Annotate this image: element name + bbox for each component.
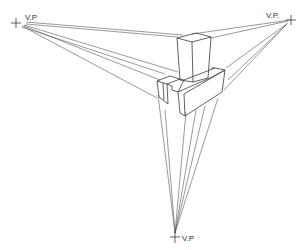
bottom-vp-label: V.P: [182, 234, 194, 243]
left-vp-construction-lines: [22, 22, 183, 98]
right-vp-label: V.P.: [266, 11, 279, 20]
bottom-vp-construction-lines: [158, 95, 218, 233]
vertical-post: [177, 33, 211, 82]
left-vp-marker-icon: [11, 18, 21, 28]
bottom-vp-marker-icon: [170, 232, 180, 243]
left-vp-label: V.P: [25, 13, 37, 22]
perspective-drawing: V.P V.P. V.P: [0, 0, 308, 250]
